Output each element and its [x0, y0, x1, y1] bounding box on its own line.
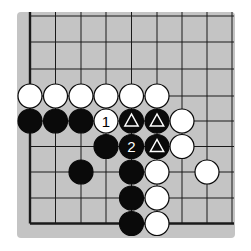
black-stone	[44, 109, 68, 133]
black-stone-disc	[69, 109, 93, 133]
black-stone-disc	[120, 186, 144, 210]
white-stone	[170, 109, 194, 133]
black-stone-disc	[120, 160, 144, 184]
black-stone	[94, 135, 118, 159]
black-stone-disc	[94, 135, 118, 159]
move-number-label: 1	[102, 113, 110, 130]
white-stone-disc	[69, 84, 93, 108]
black-stone-disc	[18, 109, 42, 133]
white-stone	[145, 186, 169, 210]
white-stone	[170, 135, 194, 159]
white-stone	[195, 160, 219, 184]
go-board: 12	[0, 0, 251, 251]
white-stone-disc	[44, 84, 68, 108]
black-stone-disc	[44, 109, 68, 133]
white-stone	[145, 212, 169, 236]
move-number-label: 2	[127, 138, 135, 155]
white-stone-disc	[195, 160, 219, 184]
black-stone	[120, 109, 144, 133]
white-stone-disc	[94, 84, 118, 108]
go-board-diagram: 12	[0, 0, 251, 251]
white-stone	[145, 160, 169, 184]
black-stone-disc	[69, 160, 93, 184]
white-stone	[44, 84, 68, 108]
black-stone	[145, 135, 169, 159]
white-stone-disc	[145, 160, 169, 184]
white-stone-disc	[170, 109, 194, 133]
black-stone	[69, 160, 93, 184]
black-stone	[120, 186, 144, 210]
white-stone: 1	[94, 109, 118, 133]
black-stone	[18, 109, 42, 133]
white-stone	[18, 84, 42, 108]
white-stone	[69, 84, 93, 108]
black-stone	[120, 212, 144, 236]
white-stone-disc	[18, 84, 42, 108]
white-stone-disc	[145, 186, 169, 210]
white-stone	[145, 84, 169, 108]
black-stone-disc	[120, 212, 144, 236]
black-stone: 2	[120, 135, 144, 159]
black-stone	[120, 160, 144, 184]
white-stone	[94, 84, 118, 108]
white-stone-disc	[170, 135, 194, 159]
black-stone	[145, 109, 169, 133]
white-stone-disc	[120, 84, 144, 108]
white-stone-disc	[145, 84, 169, 108]
white-stone	[120, 84, 144, 108]
white-stone-disc	[145, 212, 169, 236]
black-stone	[69, 109, 93, 133]
